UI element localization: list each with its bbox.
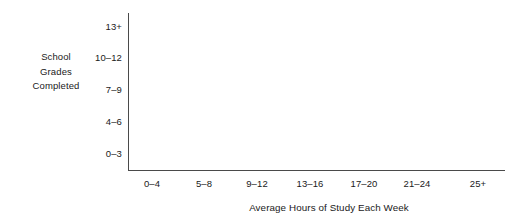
x-axis-tick-label: 13–16 [297,178,324,190]
chart-container: School Grades Completed 13+ 10–12 7–9 4–… [0,0,529,224]
y-axis-tick-label: 7–9 [0,84,122,95]
x-axis-line [128,170,505,171]
x-axis-tick-label: 5–8 [196,178,212,190]
x-axis-tick-label: 25+ [470,178,486,190]
plot-area [129,13,505,170]
x-axis-tick-label: 21–24 [404,178,431,190]
x-axis-tick-label: 9–12 [246,178,268,190]
y-axis-tick-label: 13+ [0,21,122,32]
x-axis-tick-label: 17–20 [351,178,378,190]
x-axis-tick-label: 0–4 [144,178,160,190]
y-axis-tick-label: 0–3 [0,148,122,159]
y-axis-tick-label: 10–12 [0,52,122,63]
x-axis-tick-labels: 0–4 5–8 9–12 13–16 17–20 21–24 25+ [0,178,529,192]
y-axis-tick-label: 4–6 [0,116,122,127]
x-axis-title: Average Hours of Study Each Week [128,202,529,214]
